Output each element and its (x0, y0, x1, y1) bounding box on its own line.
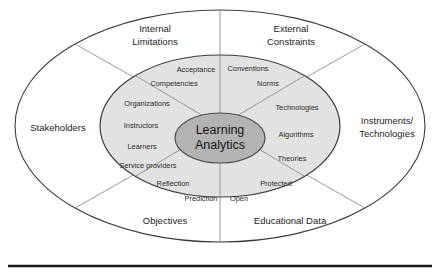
outer-label-objectives: Objectives (143, 215, 188, 226)
outer-label-instruments-technologies-line1: Instruments/ (361, 115, 414, 126)
core-label-line2: Analytics (195, 138, 245, 152)
inner-label-norms: Norms (257, 79, 279, 88)
inner-label-acceptance: Acceptance (177, 65, 216, 74)
core-label-line1: Learning (196, 123, 245, 137)
outer-label-stakeholders: Stakeholders (30, 122, 86, 133)
outer-label-external-constraints-line1: External (274, 23, 309, 34)
inner-label-algorithms: Algorithms (279, 130, 314, 139)
outer-label-external-constraints-line2: Constraints (267, 36, 315, 47)
inner-label-service-providers: Service providers (119, 161, 176, 170)
venn-diagram-canvas: Learning Analytics Internal Limitations … (0, 0, 440, 275)
inner-label-prediction: Prediction (185, 194, 218, 203)
inner-label-reflection: Reflection (157, 179, 190, 188)
outer-label-instruments-technologies-line2: Technologies (359, 128, 415, 139)
inner-label-competencies: Competencies (150, 79, 198, 88)
outer-label-educational-data: Educational Data (254, 215, 327, 226)
outer-label-internal-limitations-line2: Limitations (132, 36, 178, 47)
inner-label-protected: Protected (260, 179, 292, 188)
inner-label-theories: Theories (278, 154, 307, 163)
inner-label-technologies: Technologies (275, 103, 318, 112)
inner-label-instructors: Instructors (124, 121, 159, 130)
inner-label-organizations: Organizations (124, 99, 170, 108)
outer-label-internal-limitations-line1: Internal (139, 23, 171, 34)
inner-label-learners: Learners (127, 142, 156, 151)
learning-analytics-diagram: Learning Analytics Internal Limitations … (0, 0, 440, 275)
inner-label-open: Open (230, 194, 248, 203)
inner-label-conventions: Conventions (227, 64, 268, 73)
